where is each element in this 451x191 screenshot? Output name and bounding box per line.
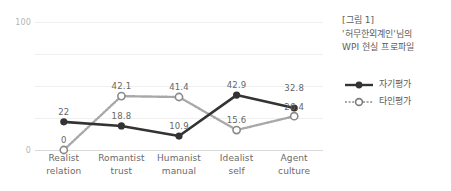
x-category-4-line: culture (265, 165, 323, 178)
data-point-self-0[interactable] (60, 118, 67, 125)
data-label-other-2: 41.4 (169, 82, 189, 92)
data-point-other-4[interactable] (291, 113, 298, 120)
chart-area: 100 0 042.141.415.626.42218.810.942.932.… (0, 0, 330, 191)
data-point-self-1[interactable] (118, 122, 125, 129)
x-category-0: Realistrelation (35, 152, 93, 190)
side-panel: [그림 1] '허무한외계인'님의 WPI 현실 프로파일 자기평가 (330, 0, 451, 191)
legend-marker-other-icon (344, 94, 374, 108)
data-label-other-3: 15.6 (227, 115, 247, 125)
data-label-other-1: 42.1 (112, 81, 132, 91)
data-point-other-1[interactable] (118, 93, 125, 100)
x-category-4: Agentculture (265, 152, 323, 190)
x-axis-category-labels: RealistrelationRomantisttrustHumanistman… (35, 152, 323, 190)
legend-label-other: 타인평가 (379, 94, 411, 107)
chart-legend: 자기평가 타인평가 (344, 75, 411, 109)
data-label-other-4: 26.4 (284, 102, 304, 112)
gridline-0 (35, 150, 323, 151)
legend-item-other: 타인평가 (344, 92, 411, 109)
x-category-3: Idealistself (208, 152, 266, 190)
data-point-self-2[interactable] (175, 132, 182, 139)
y-tick-bottom: 0 (5, 146, 31, 155)
x-category-3-line: Idealist (208, 152, 266, 165)
legend-label-self: 자기평가 (379, 77, 411, 90)
data-label-self-0: 22 (58, 107, 69, 117)
data-label-self-2: 10.9 (169, 121, 189, 131)
figure-title-line2: '허무한외계인'님의 (342, 28, 451, 42)
data-point-self-3[interactable] (233, 91, 240, 98)
x-category-0-line: relation (35, 165, 93, 178)
x-category-2: Humanistmanual (150, 152, 208, 190)
x-category-0-line: Realist (35, 152, 93, 165)
legend-marker-self-icon (344, 77, 374, 91)
figure-title-line3: WPI 현실 프로파일 (342, 41, 451, 55)
x-category-1-line: Romantist (93, 152, 151, 165)
x-category-3-line: self (208, 165, 266, 178)
data-point-other-2[interactable] (175, 93, 182, 100)
x-category-2-line: Humanist (150, 152, 208, 165)
data-label-self-3: 42.9 (227, 80, 247, 90)
data-label-self-4: 32.8 (284, 83, 304, 93)
legend-item-self: 자기평가 (344, 75, 411, 92)
data-point-other-3[interactable] (233, 126, 240, 133)
x-category-4-line: Agent (265, 152, 323, 165)
y-tick-top: 100 (5, 18, 31, 27)
x-category-1-line: trust (93, 165, 151, 178)
data-label-self-1: 18.8 (112, 111, 132, 121)
figure-title: [그림 1] '허무한외계인'님의 WPI 현실 프로파일 (342, 14, 451, 55)
x-category-1: Romantisttrust (93, 152, 151, 190)
data-label-other-0: 0 (61, 135, 67, 145)
wpi-profile-figure: 100 0 042.141.415.626.42218.810.942.932.… (0, 0, 451, 191)
figure-title-line1: [그림 1] (342, 14, 451, 28)
plot-area: 100 0 042.141.415.626.42218.810.942.932.… (35, 22, 323, 150)
x-category-2-line: manual (150, 165, 208, 178)
